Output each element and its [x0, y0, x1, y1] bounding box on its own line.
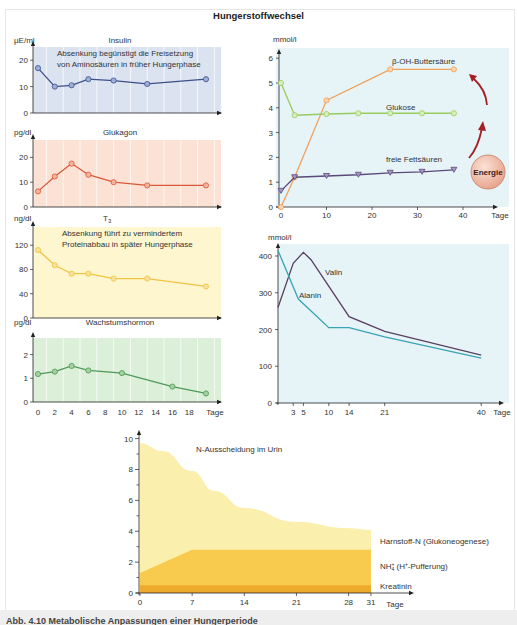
series-label: Alanin [299, 291, 321, 300]
y-tick-label: 2 [269, 153, 274, 162]
x-tick-label: 21 [380, 408, 389, 417]
data-point [69, 271, 74, 276]
series-label: NH+4 (H+-Pufferung) [380, 561, 448, 572]
x-axis-label: Tage [386, 600, 404, 609]
y-tick-label: 4 [129, 527, 134, 536]
y-tick-label: 5 [269, 79, 274, 88]
y-axis-unit: µE/ml [14, 36, 35, 45]
y-tick-label: 300 [259, 289, 273, 298]
x-tick-label: 2 [53, 408, 58, 417]
chart-insulin: µE/mlInsulin01020Absenkung begünstigt di… [14, 36, 222, 118]
annotation-text: Absenkung führt zu vermindertem [62, 229, 182, 238]
x-tick-label: 31 [366, 598, 375, 607]
data-point [356, 111, 361, 116]
x-tick-label: 10 [322, 211, 331, 220]
x-tick-label: 7 [190, 598, 195, 607]
figure-caption: Abb. 4.10 Metabolische Anpassungen einer… [6, 611, 258, 625]
data-point [86, 77, 91, 82]
data-point [203, 77, 208, 82]
data-point [203, 183, 208, 188]
y-tick-label: 0 [269, 203, 274, 212]
y-axis-unit: mmol/l [273, 35, 297, 44]
label-end: -Pufferung) [408, 562, 448, 571]
x-tick-label: 18 [185, 408, 194, 417]
data-point [292, 113, 297, 118]
label-rest: (H [394, 562, 405, 571]
x-tick-label: 4 [69, 408, 74, 417]
plot-background [276, 48, 509, 207]
y-tick-label: 0 [24, 203, 29, 212]
data-point [111, 276, 116, 281]
y-tick-label: 40 [19, 290, 28, 299]
y-tick-label: 1 [24, 374, 29, 383]
x-tick-label: 40 [477, 408, 486, 417]
data-point [86, 172, 91, 177]
data-point [170, 384, 175, 389]
data-point [35, 189, 40, 194]
data-point [145, 81, 150, 86]
x-tick-label: 14 [151, 408, 160, 417]
y-axis-unit: pg/dl [14, 128, 32, 137]
data-point [86, 271, 91, 276]
chart-title: Insulin [108, 36, 131, 45]
x-tick-label: 12 [134, 408, 143, 417]
chart-glukagon: pg/dlGlukagon01020 [14, 128, 222, 212]
plot-background [33, 140, 221, 207]
y-tick-label: 0 [24, 398, 29, 407]
series-label: β-OH-Buttersäure [392, 57, 456, 66]
y-tick-label: 10 [19, 83, 28, 92]
y-tick-label: 80 [19, 265, 28, 274]
x-tick-label: 10 [118, 408, 127, 417]
plot-background [278, 244, 509, 403]
data-point [278, 80, 283, 85]
y-tick-label: 400 [259, 252, 273, 261]
data-point [278, 204, 283, 209]
series-label: Valin [325, 268, 342, 277]
axis-arrow-icon [31, 332, 35, 337]
x-tick-label: 0 [138, 598, 143, 607]
series-label: Kreatinin [380, 582, 412, 591]
series-label: Glukose [386, 103, 416, 112]
data-point [52, 84, 57, 89]
y-tick-label: 2 [24, 351, 29, 360]
y-tick-label: 1 [269, 178, 274, 187]
y-tick-label: 0 [268, 399, 273, 408]
x-tick-label: 30 [413, 211, 422, 220]
x-tick-label: 28 [344, 598, 353, 607]
y-tick-label: 20 [19, 56, 28, 65]
data-point [52, 369, 57, 374]
y-tick-label: 0 [129, 589, 134, 598]
y-axis-unit: mmol/l [268, 233, 292, 242]
y-tick-label: 100 [259, 362, 273, 371]
x-tick-label: 5 [301, 408, 306, 417]
data-point [451, 111, 456, 116]
y-axis-unit: pg/dl [14, 318, 32, 327]
data-point [203, 391, 208, 396]
data-point [324, 111, 329, 116]
data-point [119, 370, 124, 375]
chart-metabolite: mmol/l0123456010203040Tageβ-OH-Buttersäu… [269, 35, 510, 220]
y-tick-label: 8 [129, 465, 134, 474]
axis-arrow-icon [137, 430, 141, 435]
x-axis-label: Tage [491, 211, 509, 220]
chart-wachstumshormon: pg/dlWachstumshormon012024681012141618Ta… [14, 318, 224, 417]
data-point [451, 67, 456, 72]
y-tick-label: 2 [129, 558, 134, 567]
figure-plots: µE/mlInsulin01020Absenkung begünstigt di… [0, 0, 517, 625]
x-tick-label: 20 [368, 211, 377, 220]
axis-arrow-icon [409, 591, 414, 595]
data-point [111, 180, 116, 185]
y-tick-label: 6 [269, 54, 274, 63]
chart-title: N-Ausscheidung im Urin [196, 445, 282, 454]
y-axis-unit: ng/dl [14, 214, 32, 223]
y-tick-label: 120 [15, 241, 29, 250]
series-label: Harnstoff-N (Glukoneogenese) [380, 537, 489, 546]
axis-arrow-icon [31, 221, 35, 226]
y-tick-label: 10 [124, 435, 133, 444]
chart-title: Wachstumshormon [86, 318, 155, 327]
data-point [145, 183, 150, 188]
chart-aminosaeuren: mmol/l01002003004003510142140TageValinAl… [259, 233, 512, 417]
y-tick-label: 10 [19, 178, 28, 187]
annotation-text: Absenkung begünstigt die Freisetzung [57, 49, 193, 58]
x-tick-label: 10 [324, 408, 333, 417]
